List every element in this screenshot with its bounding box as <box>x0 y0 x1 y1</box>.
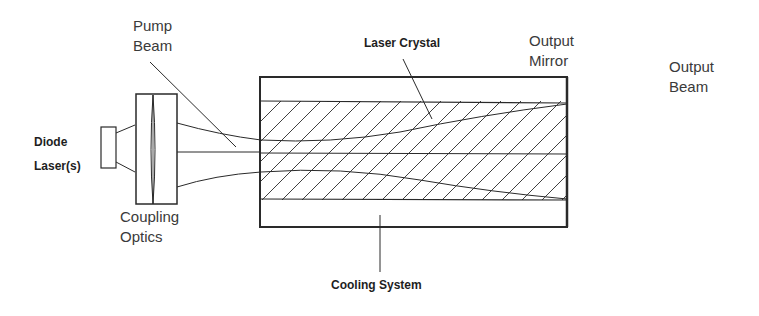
label-pump-beam: Pump Beam <box>133 16 172 56</box>
label-laser-crystal: Laser Crystal <box>364 33 440 53</box>
diode-emission-lower <box>116 162 135 172</box>
label-diode-line1: Diode <box>34 130 81 154</box>
label-pump-beam-line1: Pump <box>133 16 172 36</box>
label-coupling-optics: Coupling Optics <box>120 207 179 247</box>
label-diode-lasers: Diode Laser(s) <box>34 130 81 178</box>
label-output-beam: Output Beam <box>669 57 714 97</box>
label-coupling-line2: Optics <box>120 227 179 247</box>
label-coupling-line1: Coupling <box>120 207 179 227</box>
label-cooling-system: Cooling System <box>331 275 422 295</box>
cooling-system-housing <box>260 77 567 227</box>
label-pump-beam-line2: Beam <box>133 36 172 56</box>
diode-laser <box>101 127 116 168</box>
diode-emission-upper <box>116 125 135 133</box>
pump-beam-upper <box>177 123 261 140</box>
label-diode-line2: Laser(s) <box>34 154 81 178</box>
label-output-mirror-line2: Mirror <box>529 51 574 71</box>
label-output-beam-line1: Output <box>669 57 714 77</box>
pump-beam-lower <box>177 172 261 187</box>
coupling-optics-housing <box>136 94 177 204</box>
label-output-mirror: Output Mirror <box>529 31 574 71</box>
label-output-beam-line2: Beam <box>669 77 714 97</box>
label-output-mirror-line1: Output <box>529 31 574 51</box>
